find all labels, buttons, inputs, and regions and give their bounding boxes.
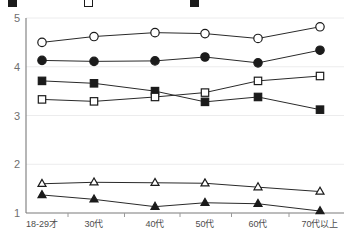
filled-triangle-data-point <box>38 191 46 198</box>
y-axis-tick-label: 4 <box>14 61 20 73</box>
x-axis-tick-label: 30代 <box>84 219 103 229</box>
series-line <box>42 27 320 43</box>
y-axis-tick-label: 3 <box>14 110 20 122</box>
filled-triangle-data-point <box>90 195 98 202</box>
data-series-layer <box>38 23 324 214</box>
filled-square-data-point <box>38 77 45 84</box>
filled-triangle-data-point <box>254 199 262 206</box>
series-line <box>42 195 320 211</box>
gridlines <box>26 18 344 164</box>
filled-circle-data-point <box>316 46 324 54</box>
filled-square-data-point <box>201 98 208 105</box>
open-circle-data-point <box>38 38 46 46</box>
x-axis-tick-label: 40代 <box>145 219 164 229</box>
open-circle-data-point <box>201 29 209 37</box>
open-square-data-point <box>201 89 208 96</box>
series-3-filled-square <box>38 77 323 113</box>
y-axis-tick-label: 1 <box>14 207 20 219</box>
x-axis-tick-label: 18-29才 <box>26 218 58 229</box>
filled-circle-data-point <box>151 57 159 65</box>
y-axis-tick-label: 5 <box>14 12 20 24</box>
plot-area: 54321 18-29才30代40代50代60代70代以上 <box>0 0 349 230</box>
open-square-data-point <box>151 93 158 100</box>
open-triangle-data-point <box>254 183 262 190</box>
filled-circle-data-point <box>90 57 98 65</box>
series-6-filled-triangle <box>38 191 324 214</box>
open-circle-data-point <box>316 23 324 31</box>
series-line <box>42 50 320 63</box>
series-1-open-circle <box>38 23 324 47</box>
open-square-data-point <box>316 72 323 79</box>
open-circle-data-point <box>151 28 159 36</box>
filled-triangle-data-point <box>201 198 209 205</box>
y-axis-tick-labels: 54321 <box>14 12 20 219</box>
filled-square-data-point <box>254 93 261 100</box>
filled-circle-data-point <box>254 59 262 67</box>
filled-circle-data-point <box>201 53 209 61</box>
x-axis-tick-label: 60代 <box>248 219 267 229</box>
y-axis-tick-label: 2 <box>14 158 20 170</box>
x-axis-tick-labels: 18-29才30代40代50代60代70代以上 <box>26 218 339 229</box>
series-line <box>42 81 320 110</box>
open-triangle-data-point <box>151 178 159 185</box>
filled-triangle-data-point <box>316 207 324 214</box>
open-square-data-point <box>38 96 45 103</box>
series-line <box>42 182 320 191</box>
open-square-data-point <box>90 98 97 105</box>
open-triangle-data-point <box>90 178 98 185</box>
open-square-data-point <box>254 77 261 84</box>
line-chart: 54321 18-29才30代40代50代60代70代以上 <box>0 0 349 230</box>
series-5-open-triangle <box>38 178 324 194</box>
open-circle-data-point <box>254 34 262 42</box>
open-triangle-data-point <box>201 179 209 186</box>
open-triangle-data-point <box>316 187 324 194</box>
x-axis-tick-label: 70代以上 <box>301 219 338 229</box>
filled-square-data-point <box>90 80 97 87</box>
series-4-open-square <box>38 72 323 105</box>
filled-triangle-data-point <box>151 202 159 209</box>
open-circle-data-point <box>90 32 98 40</box>
filled-circle-data-point <box>38 56 46 64</box>
series-2-filled-circle <box>38 46 324 67</box>
open-triangle-data-point <box>38 179 46 186</box>
x-axis-tick-marks <box>68 213 289 217</box>
x-axis-tick-label: 50代 <box>195 219 214 229</box>
series-line <box>42 76 320 101</box>
filled-square-data-point <box>316 106 323 113</box>
